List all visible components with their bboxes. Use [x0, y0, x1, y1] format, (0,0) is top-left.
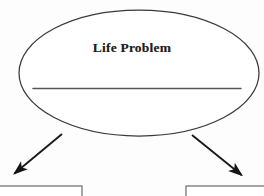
arrow-left-connector	[15, 134, 63, 174]
outcome-box-right[interactable]	[186, 186, 264, 196]
outcome-box-left[interactable]	[0, 186, 82, 196]
arrow-right-connector	[192, 135, 242, 175]
life-problem-ellipse[interactable]	[19, 10, 259, 136]
diagram-svg	[0, 0, 264, 196]
life-problem-label: Life Problem	[0, 40, 264, 56]
worksheet-diagram-canvas: Life Problem	[0, 0, 264, 196]
